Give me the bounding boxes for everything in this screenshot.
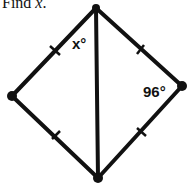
side-top-right [96, 8, 182, 86]
vertex-left [7, 91, 17, 101]
side-top-left [12, 8, 96, 96]
vertex-bottom [93, 173, 103, 183]
angle-label-x: x° [72, 35, 86, 52]
diagonal [96, 8, 98, 178]
geometry-figure: x° 96° [0, 0, 190, 185]
vertex-right [177, 81, 187, 91]
angle-label-96: 96° [143, 83, 166, 100]
vertex-top [92, 4, 100, 12]
